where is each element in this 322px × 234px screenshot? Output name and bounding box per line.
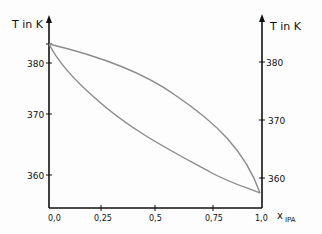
dew-curve <box>49 44 260 193</box>
left-tick-label: 360 <box>27 171 44 181</box>
phase-diagram: T in K T in K 380 370 360 380 370 360 0,… <box>0 0 322 234</box>
x-tick-label: 0,5 <box>149 214 162 223</box>
right-axis-arrow-icon <box>259 14 265 22</box>
x-axis-label: x <box>277 210 283 221</box>
right-tick-label: 380 <box>266 58 283 68</box>
x-tick-label: 1,0 <box>255 214 268 223</box>
right-axis-label: T in K <box>269 20 302 33</box>
left-axis-label: T in K <box>11 18 44 31</box>
x-tick-label: 0,0 <box>48 214 61 223</box>
x-tick-label: 0,75 <box>205 214 223 223</box>
bubble-curve <box>49 44 260 193</box>
x-axis-subscript: IPA <box>285 216 296 224</box>
left-tick-label: 380 <box>27 59 44 69</box>
right-tick-label: 360 <box>268 174 285 184</box>
left-axis-arrow-icon <box>46 15 52 23</box>
x-tick-label: 0,25 <box>94 214 112 223</box>
left-tick-label: 370 <box>27 110 44 120</box>
right-tick-label: 370 <box>268 116 285 126</box>
